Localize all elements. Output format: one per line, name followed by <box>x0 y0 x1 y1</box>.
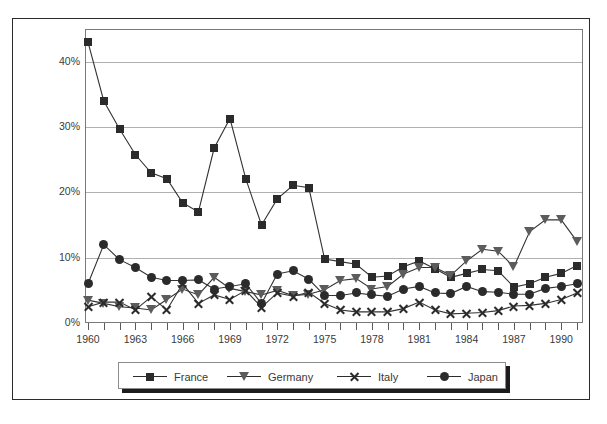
data-point-germany <box>146 305 156 314</box>
data-point-france <box>557 269 565 277</box>
data-point-japan <box>478 287 487 296</box>
y-axis-tick-text: 40% <box>44 56 80 67</box>
data-point-japan <box>415 282 424 291</box>
data-point-italy <box>477 307 488 318</box>
data-point-japan <box>147 273 156 282</box>
data-point-germany <box>430 263 440 272</box>
y-axis-tick-label: 0% <box>36 317 80 328</box>
x-axis-tick <box>183 323 184 330</box>
x-axis-tick <box>388 323 389 330</box>
data-point-france <box>573 262 581 270</box>
x-axis-tick-label: 1969 <box>210 333 250 345</box>
x-axis-tick-label: 1963 <box>115 333 155 345</box>
data-point-germany <box>493 247 503 256</box>
y-axis-tick-label: 30% <box>36 121 80 132</box>
x-axis-tick <box>277 323 278 330</box>
data-point-italy <box>288 291 299 302</box>
x-axis-tick <box>104 323 105 330</box>
legend-item-japan[interactable]: Japan <box>427 363 498 390</box>
data-point-italy <box>161 304 172 315</box>
x-icon <box>337 371 371 383</box>
data-point-japan <box>210 285 219 294</box>
data-point-france <box>163 175 171 183</box>
data-point-italy <box>146 291 157 302</box>
data-point-japan <box>273 270 282 279</box>
data-point-italy <box>130 304 141 315</box>
y-axis-tick-text: 20% <box>44 186 80 197</box>
x-axis-tick <box>419 323 420 330</box>
legend-item-italy[interactable]: Italy <box>337 363 398 390</box>
legend-label: Germany <box>268 371 313 383</box>
data-point-italy <box>445 308 456 319</box>
data-point-germany <box>209 273 219 282</box>
data-point-france <box>478 265 486 273</box>
data-point-france <box>494 267 502 275</box>
data-point-japan <box>462 282 471 291</box>
x-axis-tick <box>246 323 247 330</box>
data-point-france <box>226 115 234 123</box>
x-axis-tick-label: 1984 <box>447 333 487 345</box>
x-axis-tick <box>435 323 436 330</box>
data-point-italy <box>335 304 346 315</box>
data-point-japan <box>541 284 550 293</box>
x-axis-tick-label: 1981 <box>399 333 439 345</box>
data-point-italy <box>272 287 283 298</box>
data-point-italy <box>83 301 94 312</box>
data-point-japan <box>131 263 140 272</box>
x-axis-tick <box>577 323 578 330</box>
x-axis-tick <box>120 323 121 330</box>
data-point-france <box>210 144 218 152</box>
x-axis-tick <box>514 323 515 330</box>
y-axis-tick-label: 20% <box>36 186 80 197</box>
data-point-italy <box>508 301 519 312</box>
data-point-japan <box>573 279 582 288</box>
data-point-italy <box>524 300 535 311</box>
data-point-japan <box>336 291 345 300</box>
x-axis-tick <box>530 323 531 330</box>
data-point-italy <box>430 304 441 315</box>
x-axis-tick <box>340 323 341 330</box>
data-point-italy <box>114 297 125 308</box>
x-axis-tick <box>545 323 546 330</box>
data-point-france <box>336 258 344 266</box>
data-point-france <box>368 273 376 281</box>
x-axis-tick <box>230 323 231 330</box>
x-axis-tick <box>467 323 468 330</box>
x-axis-tick <box>482 323 483 330</box>
data-point-france <box>116 125 124 133</box>
data-point-japan <box>383 292 392 301</box>
data-point-france <box>321 255 329 263</box>
data-point-germany <box>335 276 345 285</box>
data-point-italy <box>572 287 583 298</box>
x-axis-tick <box>88 323 89 330</box>
data-point-japan <box>525 290 534 299</box>
data-point-italy <box>224 294 235 305</box>
x-axis-tick <box>309 323 310 330</box>
data-point-france <box>541 273 549 281</box>
chart-legend: FranceGermanyItalyJapan <box>118 362 506 389</box>
data-point-germany <box>161 295 171 304</box>
data-point-italy <box>193 298 204 309</box>
legend-label: Japan <box>468 371 498 383</box>
legend-item-france[interactable]: France <box>133 363 208 390</box>
x-axis-tick <box>214 323 215 330</box>
data-point-japan <box>431 288 440 297</box>
x-axis-tick-label: 1960 <box>68 333 108 345</box>
y-axis-tick-label: 10% <box>36 252 80 263</box>
x-axis-tick-label: 1975 <box>305 333 345 345</box>
legend-label: Italy <box>378 371 398 383</box>
legend-item-germany[interactable]: Germany <box>227 363 313 390</box>
line-chart: 0%10%20%30%40% 1960196319661969197219751… <box>0 0 607 424</box>
data-point-italy <box>414 297 425 308</box>
data-point-france <box>273 195 281 203</box>
y-axis-tick-text: 10% <box>44 252 80 263</box>
data-point-germany <box>351 274 361 283</box>
data-point-germany <box>382 282 392 291</box>
data-point-japan <box>84 279 93 288</box>
data-point-germany <box>524 227 534 236</box>
data-point-germany <box>398 270 408 279</box>
x-axis-tick <box>198 323 199 330</box>
data-point-france <box>352 260 360 268</box>
x-axis-tick-label: 1972 <box>257 333 297 345</box>
x-axis-tick-label: 1966 <box>163 333 203 345</box>
